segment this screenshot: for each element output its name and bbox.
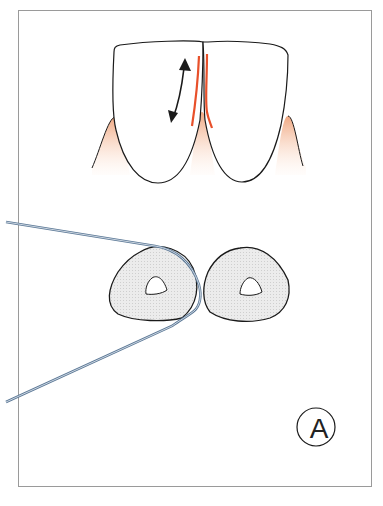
figure-label: A [300,410,338,448]
right-tooth [203,41,288,182]
right-tooth-cross-section [204,247,289,321]
flossing-diagram: A [0,0,383,506]
left-tooth-cross-section [109,247,196,321]
